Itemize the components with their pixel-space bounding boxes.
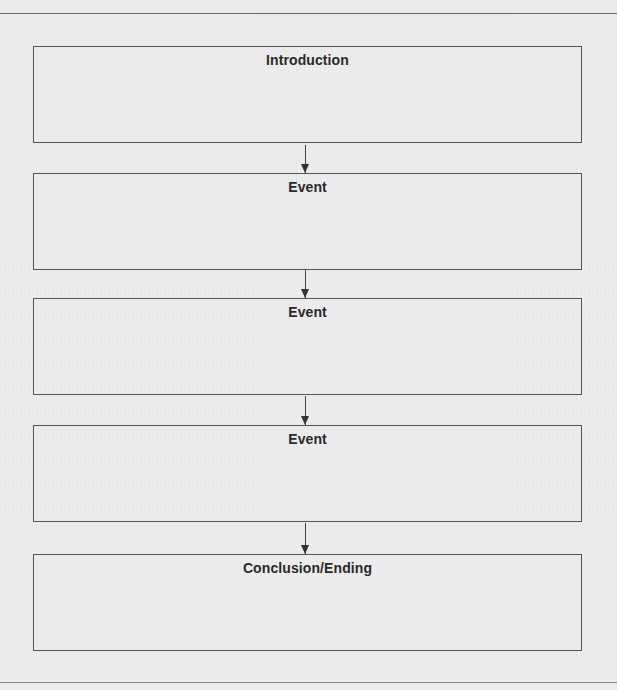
flow-box-introduction: Introduction xyxy=(33,46,582,143)
arrow-down-icon xyxy=(305,396,306,425)
arrow-down-icon xyxy=(305,145,306,173)
bottom-rule-divider xyxy=(0,682,617,683)
box-label: Event xyxy=(34,179,581,195)
top-rule-divider xyxy=(0,13,617,14)
box-label: Event xyxy=(34,304,581,320)
flow-box-event-2: Event xyxy=(33,298,582,395)
flow-box-event-3: Event xyxy=(33,425,582,522)
arrow-down-icon xyxy=(305,270,306,298)
flow-box-conclusion: Conclusion/Ending xyxy=(33,554,582,651)
box-label: Event xyxy=(34,431,581,447)
box-label: Conclusion/Ending xyxy=(34,560,581,576)
box-label: Introduction xyxy=(34,52,581,68)
arrow-down-icon xyxy=(305,523,306,554)
flow-box-event-1: Event xyxy=(33,173,582,270)
